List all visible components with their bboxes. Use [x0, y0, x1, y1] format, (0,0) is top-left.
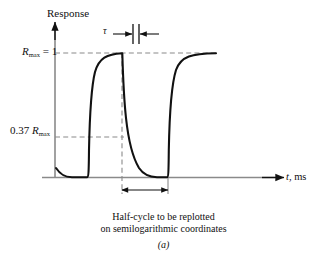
rmax-symbol: R: [22, 45, 29, 57]
response-curve: [56, 53, 216, 177]
figure-container: Response Rmax = 1 0.37 Rmax t, ms τ Half…: [0, 0, 327, 266]
time-unit: , ms: [289, 171, 307, 182]
y-tick-label-037rmax: 0.37 Rmax: [10, 125, 50, 137]
figure-label-text: (a): [158, 239, 170, 250]
caption-line-1: Half-cycle to be replotted: [0, 212, 327, 222]
rmax-value: = 1: [40, 45, 57, 57]
r037-symbol: R: [32, 124, 39, 136]
y-axis-title: Response: [47, 8, 89, 19]
y-tick-label-rmax: Rmax = 1: [22, 46, 57, 58]
r037-subscript: max: [39, 130, 50, 137]
x-axis-title: t, ms: [286, 172, 306, 183]
caption-line-2: on semilogarithmic coordinates: [0, 224, 327, 234]
tau-symbol-glyph: τ: [103, 25, 107, 36]
r037-prefix: 0.37: [10, 124, 32, 136]
figure-label: (a): [0, 240, 327, 250]
tau-label: τ: [103, 26, 107, 36]
rmax-subscript: max: [29, 51, 40, 58]
